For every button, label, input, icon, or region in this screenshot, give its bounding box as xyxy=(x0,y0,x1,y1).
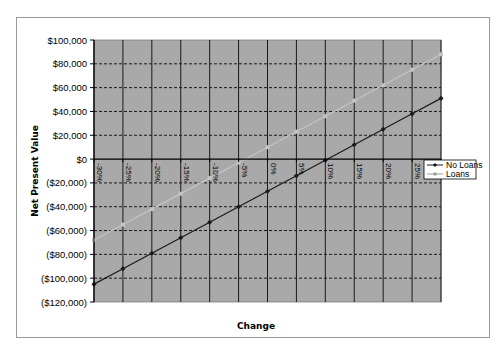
x-tick-label: 10% xyxy=(326,163,335,179)
x-tick-label: 0% xyxy=(269,163,278,175)
square-marker-icon xyxy=(410,68,414,72)
x-tick-label: -20% xyxy=(153,163,162,182)
y-tick-label: ($120,000) xyxy=(41,297,87,308)
x-tick-label: -15% xyxy=(182,163,191,182)
x-tick-label: -25% xyxy=(124,163,133,182)
square-marker-icon xyxy=(121,223,125,227)
x-tick-label: -10% xyxy=(211,163,220,182)
legend-label-loans: Loans xyxy=(446,169,469,179)
x-axis-title: Change xyxy=(237,321,275,331)
y-tick-label: ($100,000) xyxy=(41,273,87,284)
x-tick-label: -5% xyxy=(240,163,249,177)
y-tick-label: $80,000 xyxy=(53,58,87,69)
y-tick-label: ($20,000) xyxy=(46,177,87,188)
square-marker-icon xyxy=(352,99,356,103)
line-chart: $100,000$80,000$60,000$40,000$20,000$0($… xyxy=(0,0,504,360)
x-tick-label: -30% xyxy=(95,163,104,182)
square-marker-icon xyxy=(381,83,385,87)
y-tick-label: ($80,000) xyxy=(46,249,87,260)
square-marker-icon xyxy=(439,52,443,56)
y-axis: $100,000$80,000$60,000$40,000$20,000$0($… xyxy=(41,35,94,308)
square-marker-icon xyxy=(323,114,327,118)
x-tick-label: 20% xyxy=(384,163,393,179)
y-tick-label: $60,000 xyxy=(53,82,87,93)
square-marker-icon xyxy=(434,173,437,176)
square-marker-icon xyxy=(179,192,183,196)
y-tick-label: ($40,000) xyxy=(46,201,87,212)
x-tick-label: 25% xyxy=(413,163,422,179)
y-tick-label: $100,000 xyxy=(47,35,87,46)
x-tick-label: 5% xyxy=(297,163,306,175)
y-axis-title: Net Present Value xyxy=(30,125,40,217)
square-marker-icon xyxy=(266,145,270,149)
y-tick-label: $40,000 xyxy=(53,106,87,117)
y-tick-label: ($60,000) xyxy=(46,225,87,236)
y-tick-label: $20,000 xyxy=(53,130,87,141)
square-marker-icon xyxy=(150,207,154,211)
legend: No Loans Loans xyxy=(424,160,482,179)
square-marker-icon xyxy=(294,130,298,134)
x-tick-label: 15% xyxy=(355,163,364,179)
y-tick-label: $0 xyxy=(76,154,87,165)
